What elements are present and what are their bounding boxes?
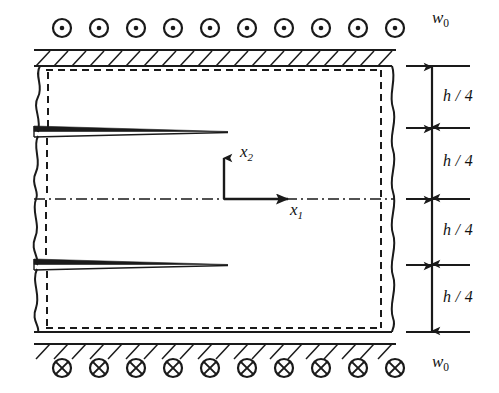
crack-wedge-icon: [34, 259, 228, 270]
circle-dot-icon: [312, 19, 330, 37]
axis-label-x2: x2: [240, 142, 253, 162]
circle-dot-icon: [53, 19, 71, 37]
dimension-label-4: h / 4: [443, 288, 473, 306]
circle-cross-icon: [90, 359, 108, 377]
circle-cross-icon: [312, 359, 330, 377]
load-label-bottom-symbol: w: [432, 352, 443, 371]
circle-dot-icon: [201, 19, 219, 37]
circle-dot-icon: [164, 19, 182, 37]
axis-label-x2-subscript: 2: [248, 151, 254, 163]
circle-cross-icon: [238, 359, 256, 377]
circle-cross-icon: [386, 359, 404, 377]
diagram-canvas: [0, 0, 499, 393]
top-support-hatching: [36, 51, 392, 66]
figure-root: w0 w0 h / 4 h / 4 h / 4 h / 4 x2 x1: [0, 0, 499, 393]
circle-dot-icon: [238, 19, 256, 37]
dimension-label-1: h / 4: [443, 87, 473, 105]
circle-dot-icon: [275, 19, 293, 37]
load-label-top-symbol: w: [432, 8, 443, 27]
circle-dot-icon: [90, 19, 108, 37]
bottom-support: [34, 344, 396, 359]
load-label-bottom-subscript: 0: [443, 361, 449, 373]
circle-dot-icon: [127, 19, 145, 37]
circle-cross-icon: [275, 359, 293, 377]
circle-dot-icon: [349, 19, 367, 37]
circle-cross-icon: [127, 359, 145, 377]
axis-label-x1-symbol: x: [290, 200, 298, 219]
load-label-top-subscript: 0: [443, 17, 449, 29]
circle-cross-icon: [53, 359, 71, 377]
wavy-break-line-icon: [34, 136, 38, 199]
circle-cross-icon: [349, 359, 367, 377]
circle-dot-icon: [386, 19, 404, 37]
dimension-label-3: h / 4: [443, 221, 473, 239]
top-support: [34, 50, 396, 66]
axis-label-x1-subscript: 1: [298, 209, 304, 221]
circle-cross-icon: [164, 359, 182, 377]
axis-label-x1: x1: [290, 200, 303, 220]
load-label-top: w0: [432, 8, 449, 28]
load-label-bottom: w0: [432, 352, 449, 372]
wavy-break-line-icon: [34, 199, 38, 265]
bottom-load-markers: [53, 359, 404, 377]
dimension-label-2: h / 4: [443, 152, 473, 170]
circle-cross-icon: [201, 359, 219, 377]
top-load-markers: [53, 19, 404, 37]
wavy-break-line-icon: [34, 269, 38, 332]
axis-label-x2-symbol: x: [240, 142, 248, 161]
crack-wedge-icon: [34, 126, 228, 137]
wavy-break-line-icon: [36, 66, 40, 132]
bottom-support-hatching: [36, 344, 392, 359]
coordinate-axes: [224, 158, 288, 199]
